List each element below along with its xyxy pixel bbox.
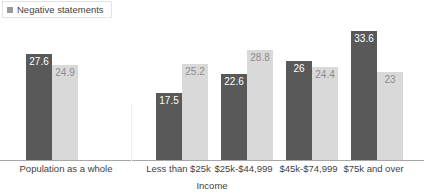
bar-light[interactable]: 24.4 bbox=[312, 67, 338, 161]
bar-dark[interactable]: 22.6 bbox=[221, 74, 247, 161]
bar-light[interactable]: 28.8 bbox=[247, 50, 273, 161]
bar-value-label: 25.2 bbox=[182, 67, 208, 77]
chart-legend[interactable]: Negative statements bbox=[2, 1, 112, 18]
bar-value-label: 17.5 bbox=[156, 96, 182, 106]
bar-group: 27.624.9 bbox=[26, 22, 78, 161]
bar-group: 22.628.8 bbox=[221, 22, 273, 161]
legend-square-icon bbox=[7, 7, 13, 13]
legend-item-label: Negative statements bbox=[17, 5, 104, 15]
bar-group: 2624.4 bbox=[286, 22, 338, 161]
plot-area: 27.624.917.525.222.628.82624.433.623 bbox=[0, 22, 424, 161]
bar-group: 33.623 bbox=[351, 22, 403, 161]
x-axis-tick-label: Less than $25k bbox=[141, 164, 216, 174]
bar-light[interactable]: 24.9 bbox=[52, 65, 78, 161]
x-axis-line bbox=[0, 160, 424, 161]
bar-value-label: 27.6 bbox=[26, 57, 52, 67]
bar-value-label: 23 bbox=[377, 75, 403, 85]
bar-dark[interactable]: 26 bbox=[286, 61, 312, 161]
bar-chart: Negative statements 27.624.917.525.222.6… bbox=[0, 0, 424, 196]
group-separator bbox=[131, 104, 132, 161]
x-axis-tick-label: $45k-$74,999 bbox=[271, 164, 346, 174]
bar-light[interactable]: 23 bbox=[377, 72, 403, 161]
bar-dark[interactable]: 27.6 bbox=[26, 54, 52, 161]
bar-dark[interactable]: 33.6 bbox=[351, 31, 377, 161]
x-axis-tick-label: Population as a whole bbox=[0, 164, 132, 174]
bar-value-label: 26 bbox=[286, 64, 312, 74]
bar-value-label: 28.8 bbox=[247, 53, 273, 63]
bar-group: 17.525.2 bbox=[156, 22, 208, 161]
x-axis-tick-label: $25k-$44,999 bbox=[206, 164, 281, 174]
x-axis-title: Income bbox=[0, 181, 424, 191]
bar-value-label: 24.9 bbox=[52, 68, 78, 78]
x-axis-tick-label: $75k and over bbox=[336, 164, 411, 174]
bar-dark[interactable]: 17.5 bbox=[156, 93, 182, 161]
bar-value-label: 24.4 bbox=[312, 70, 338, 80]
bar-light[interactable]: 25.2 bbox=[182, 64, 208, 161]
bar-value-label: 22.6 bbox=[221, 77, 247, 87]
bar-value-label: 33.6 bbox=[351, 34, 377, 44]
